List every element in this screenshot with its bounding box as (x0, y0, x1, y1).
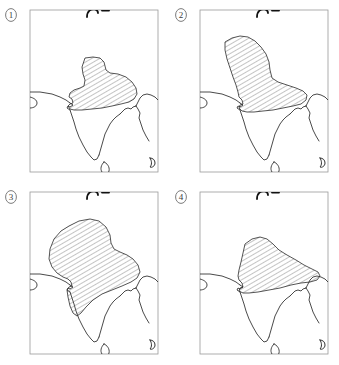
southeast-corner-feature (150, 340, 155, 349)
map-panel-2[interactable]: 2 (170, 0, 339, 182)
hatched-region-3 (49, 219, 140, 316)
map-panel-3[interactable]: 3 (0, 182, 169, 364)
figure-root: 1 (0, 0, 339, 365)
arabian-inlet (200, 97, 207, 108)
southeast-corner-feature (320, 158, 325, 167)
hatched-region-1 (68, 57, 137, 110)
panel-label-3: 3 (6, 191, 17, 204)
panel-label-1-text: 1 (9, 10, 14, 20)
arabian-inlet (30, 97, 37, 108)
panel-label-2-text: 2 (179, 10, 184, 20)
northern-dark-feature (257, 191, 279, 199)
panel-label-2: 2 (176, 9, 187, 22)
map-panel-4[interactable]: 4 (170, 182, 339, 364)
panel-label-4-text: 4 (179, 192, 184, 202)
map-panel-1[interactable]: 1 (0, 0, 169, 182)
panel-label-1: 1 (6, 9, 17, 22)
panel-label-4: 4 (176, 191, 187, 204)
northern-dark-feature (87, 9, 109, 17)
southeast-corner-feature (320, 340, 325, 349)
northern-dark-feature (87, 191, 109, 199)
arabian-inlet (200, 279, 207, 290)
northern-dark-feature (257, 9, 279, 17)
arabian-inlet (30, 279, 37, 290)
panel-label-3-text: 3 (9, 192, 14, 202)
southeast-corner-feature (150, 158, 155, 167)
